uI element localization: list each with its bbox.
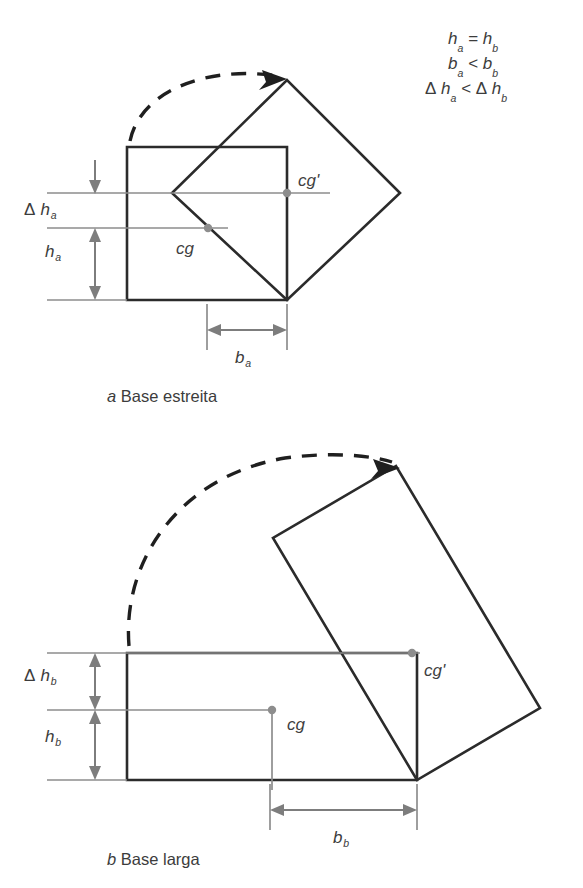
- figure-a-cg-label: cg: [176, 240, 194, 257]
- figure-a-cg-prime-label: cg': [298, 172, 319, 189]
- figure-b-delta-h-arrowhead-up: [89, 653, 101, 667]
- figure-a-rotation-arrowhead: [259, 70, 287, 90]
- figure-a-width-arrowhead-right: [273, 324, 287, 336]
- figure-a-graphics: [47, 70, 400, 350]
- figure-a-width-arrowhead-left: [207, 324, 221, 336]
- figure-b-rotated-rectangle: [273, 466, 540, 780]
- figure-b-rotation-arc: [128, 455, 392, 646]
- diagram-canvas: [0, 0, 583, 888]
- figure-b-h-arrowhead-down: [89, 766, 101, 780]
- figure-b-cg-label: cg: [287, 716, 305, 733]
- figure-a-caption-text: Base estreita: [121, 387, 217, 405]
- figure-a-h-arrowhead-down: [89, 286, 101, 300]
- legend-h-equal-render: ha = hb: [448, 29, 498, 48]
- figure-b-caption-key: b: [107, 850, 116, 868]
- figure-a-cg-prime-dot: [283, 189, 291, 197]
- figure-b-b-label: bb: [333, 829, 349, 846]
- figure-b-delta-h-label: Δ hb: [24, 667, 56, 684]
- legend-line-h-equal: h a = h b ha = hb: [448, 30, 498, 50]
- figure-b-rotation-arrowhead: [371, 459, 400, 479]
- figure-a-caption-key: a: [107, 387, 116, 405]
- figure-b-caption: b Base larga: [107, 851, 200, 868]
- figure-b-width-arrowhead-right: [403, 804, 417, 816]
- figure-a-cg-dot: [204, 224, 212, 232]
- figure-b-caption-text: Base larga: [121, 850, 200, 868]
- figure-b-h-label: hb: [45, 728, 61, 745]
- legend-line-b-less: b a < b b ba < bb: [448, 55, 498, 75]
- figure-b-graphics: [47, 455, 540, 830]
- figure-b-cg-prime-label: cg': [424, 662, 445, 679]
- figure-a-delta-h-label: Δ ha: [24, 201, 56, 218]
- figure-page: h a = h b ha = hb b a < b b ba < bb Δ h …: [0, 0, 583, 888]
- figure-b-cg-prime-dot: [408, 649, 416, 657]
- figure-b-h-arrowhead-up: [89, 710, 101, 724]
- figure-a-rotation-arc: [130, 74, 278, 141]
- figure-a-delta-h-arrowhead-down: [89, 180, 101, 194]
- legend-b-less-render: ba < bb: [448, 54, 498, 73]
- legend-dh-less-render: Δ ha < Δ hb: [425, 79, 507, 98]
- figure-a-b-label: ba: [235, 349, 251, 366]
- figure-b-delta-h-arrowhead-down: [89, 696, 101, 710]
- legend-line-dh-less: Δ h a < Δ h b Δ ha < Δ hb: [425, 80, 507, 100]
- figure-a-h-arrowhead-up: [89, 228, 101, 242]
- figure-b-width-arrowhead-left: [270, 804, 284, 816]
- figure-a-caption: a Base estreita: [107, 388, 217, 405]
- figure-a-h-label: ha: [45, 243, 61, 260]
